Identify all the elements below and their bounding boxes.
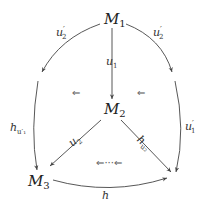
edge-h: [53, 178, 167, 188]
two-cell-left-icon: ⇐: [72, 87, 80, 98]
edge-u2prime-left: [42, 24, 100, 72]
node-m2: M2: [103, 100, 126, 119]
label-u2prime-left: u′2: [56, 24, 66, 41]
edge-u1prime: [175, 81, 181, 172]
node-m1: M1: [103, 10, 126, 29]
label-h: h: [102, 189, 109, 202]
label-u1: u1: [106, 55, 118, 70]
label-u1prime: u′1: [185, 118, 195, 135]
two-cell-bottom-icon: ⇐···⇐: [96, 157, 122, 168]
label-u2prime-right: u′2: [153, 24, 163, 41]
label-h-u1prime: hu′₁: [10, 121, 26, 136]
node-m3: M3: [27, 172, 50, 191]
edge-u2prime-right: [126, 24, 172, 72]
two-cell-right-icon: ⇐: [137, 87, 145, 98]
edge-h-u1prime: [34, 81, 38, 170]
commutative-diagram: M1 M2 M3 u′2 u′2 u1 hu′₁ u′1 u2 hu₂ h ⇐ …: [0, 0, 206, 205]
label-u2: u2: [66, 132, 84, 151]
